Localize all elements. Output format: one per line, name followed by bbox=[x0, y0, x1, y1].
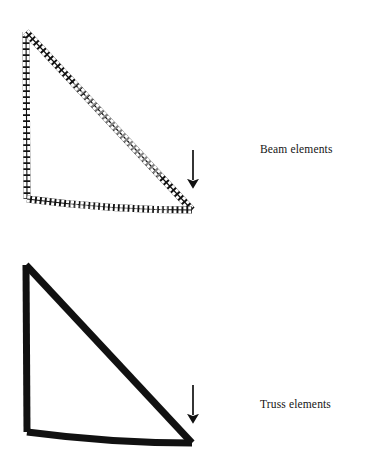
beam-panel-label: Beam elements bbox=[260, 144, 333, 156]
truss-member-bottom-chord bbox=[27, 432, 192, 443]
beam-member-diagonal-rafter bbox=[26, 32, 192, 210]
truss-panel-figure bbox=[26, 265, 193, 443]
truss-member-diagonal-rafter bbox=[26, 265, 192, 443]
truss-member-vertical-column bbox=[26, 265, 27, 432]
truss-panel-label: Truss elements bbox=[260, 399, 331, 411]
beam-panel-figure bbox=[26, 32, 193, 210]
figure-root: Beam elements Truss elements bbox=[0, 0, 368, 474]
beam-member-bottom-chord bbox=[27, 199, 192, 210]
beam-member-vertical-column bbox=[26, 32, 27, 199]
